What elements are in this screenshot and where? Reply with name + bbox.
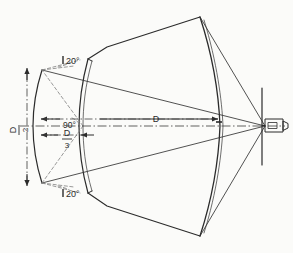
- focal-distance-text: D: [153, 114, 160, 124]
- left-small-arc: [33, 70, 42, 183]
- inner-numerator-text: D: [64, 128, 71, 138]
- angle-top-text: 20°: [66, 56, 80, 66]
- source-tube-assembly: [262, 119, 288, 132]
- angle-bottom-text: 20°: [66, 189, 80, 199]
- aperture-numerator-text: D: [8, 126, 18, 133]
- outer-faceted-shell: [88, 17, 200, 236]
- inner-dimension-label: D 3: [62, 128, 72, 150]
- angle-bottom-label: 20°: [63, 189, 80, 199]
- aperture-denominator-text: 2: [21, 127, 30, 132]
- diagram-canvas: 20° 20° 90° D D 3 D 2: [0, 0, 293, 253]
- inner-denominator-text: 3: [65, 141, 70, 150]
- technical-diagram: 20° 20° 90° D D 3 D 2: [0, 0, 293, 253]
- angle-top-label: 20°: [63, 56, 80, 66]
